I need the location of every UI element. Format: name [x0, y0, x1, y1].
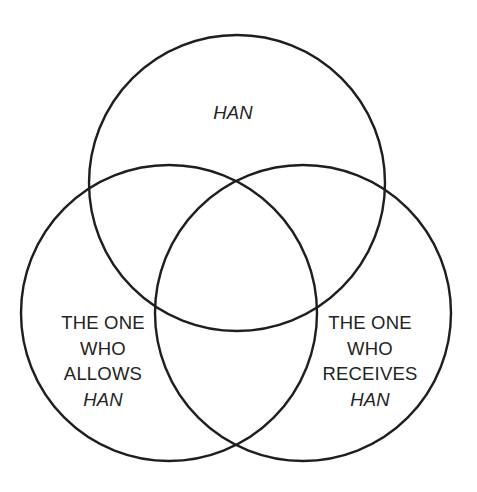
label-left-line-1: THE ONE [38, 310, 168, 336]
label-right-line-2: WHO [305, 336, 435, 362]
circle-top-han [89, 35, 385, 331]
label-right-line-1: THE ONE [305, 310, 435, 336]
label-top-han: HAN [173, 100, 293, 126]
label-left-line-2: WHO [38, 336, 168, 362]
venn-diagram [0, 0, 477, 492]
label-left-line-4: HAN [38, 387, 168, 413]
label-top-line-1: HAN [173, 100, 293, 126]
label-left-line-3: ALLOWS [38, 361, 168, 387]
label-left-one-who-allows-han: THE ONE WHO ALLOWS HAN [38, 310, 168, 412]
label-right-one-who-receives-han: THE ONE WHO RECEIVES HAN [305, 310, 435, 412]
label-right-line-4: HAN [305, 387, 435, 413]
label-right-line-3: RECEIVES [305, 361, 435, 387]
